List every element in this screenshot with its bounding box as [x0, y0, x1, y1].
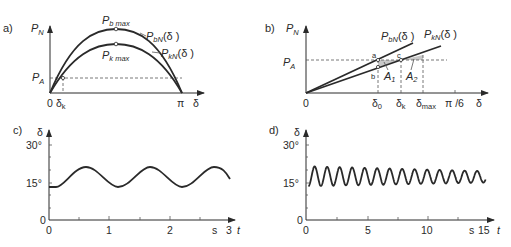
- point-b: [376, 65, 379, 68]
- delta-curve: [49, 167, 230, 187]
- pa-label: PA: [32, 71, 44, 86]
- x-tick-pi: π: [177, 97, 184, 109]
- delta-k-point: [61, 76, 64, 79]
- panel-c-label: c): [13, 124, 22, 136]
- y-tick-30: 30°: [26, 139, 42, 151]
- figure: a) PN PA Pb max Pk max PbN(δ ) PkN(δ ) 0…: [0, 0, 511, 247]
- x-axis-label: δ: [476, 97, 482, 109]
- y-tick-15: 15°: [26, 177, 42, 189]
- pa-label: PA: [283, 56, 295, 71]
- x-minor-ticks: [337, 216, 458, 220]
- point-b-label: b: [371, 72, 375, 81]
- delta-curve: [308, 167, 485, 187]
- curve-pkn-label: PkN(δ ): [424, 28, 457, 42]
- panel-a: a) PN PA Pb max Pk max PbN(δ ) PkN(δ ) 0…: [3, 14, 204, 111]
- panel-c: c) δ 0 15° 30° 0 1 2 s 3 t: [13, 124, 241, 236]
- x-tick-delta-0: δ0: [372, 97, 382, 111]
- leader-a2: [411, 59, 414, 70]
- area-a2-label: A2: [405, 70, 418, 84]
- panel-d-label: d): [269, 124, 279, 136]
- curve-pkn-label: PkN(δ ): [161, 47, 194, 61]
- y-axis-label: δ: [294, 126, 300, 138]
- x-tick-0: 0: [303, 224, 309, 236]
- area-a1-label: A1: [383, 70, 396, 84]
- x-tick-0: 0: [303, 97, 309, 109]
- curve-pbn-label: PbN(δ ): [146, 30, 179, 44]
- x-tick-pi6: π /6: [445, 97, 464, 109]
- point-c-label: c: [397, 51, 401, 60]
- panel-d: d) δ 0 15° 30° 0 5 10 s 15 t: [269, 124, 501, 236]
- peak-b-label: Pb max: [102, 14, 130, 28]
- x-tick-delta-k: δk: [396, 97, 406, 111]
- x-tick-15: 15: [478, 224, 490, 236]
- x-tick-0: 0: [47, 97, 53, 109]
- x-tick-3: 3: [226, 224, 232, 236]
- panel-a-label: a): [3, 22, 13, 34]
- peak-k-label: Pk max: [102, 49, 130, 63]
- y-axis-label: δ: [37, 126, 43, 138]
- x-tick-delta-k: δk: [56, 97, 66, 111]
- panel-b: b) PN PA a b c A1 A2 PbN(δ ) PkN(δ ) 0 δ…: [265, 22, 488, 111]
- y-axis-label: PN: [286, 22, 299, 37]
- point-a: [376, 58, 379, 61]
- x-tick-2: 2: [167, 224, 173, 236]
- panel-b-label: b): [265, 22, 275, 34]
- x-tick-10: 10: [421, 224, 433, 236]
- x-tick-delta-max: δmax: [416, 97, 436, 111]
- curve-pbn-label: PbN(δ ): [381, 30, 414, 44]
- y-axis-label: PN: [31, 22, 44, 37]
- x-axis-label: t: [497, 224, 501, 236]
- x-unit: s: [212, 224, 217, 236]
- point-a-label: a: [372, 51, 377, 60]
- x-tick-1: 1: [106, 224, 112, 236]
- x-unit: s: [469, 224, 474, 236]
- x-minor-ticks: [79, 216, 200, 220]
- x-axis-label: t: [237, 224, 241, 236]
- x-tick-0: 0: [46, 224, 52, 236]
- y-tick-30: 30°: [283, 139, 299, 151]
- y-tick-15: 15°: [283, 177, 299, 189]
- peak-k-point: [114, 42, 118, 46]
- x-axis-label: δ: [193, 97, 199, 109]
- x-tick-5: 5: [365, 224, 371, 236]
